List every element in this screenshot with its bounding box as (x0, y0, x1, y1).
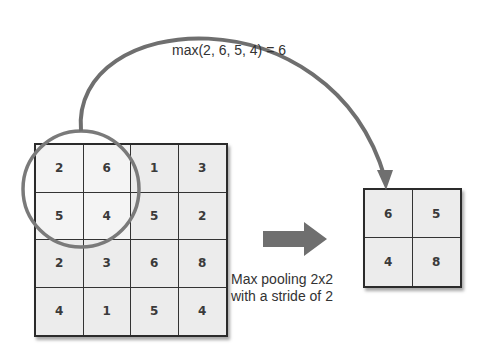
input-matrix: 2 6 1 3 5 4 5 2 2 3 6 8 4 1 5 4 (34, 143, 228, 337)
pooling-caption: Max pooling 2x2 with a stride of 2 (231, 271, 333, 305)
output-cell: 8 (413, 238, 461, 286)
input-cell: 5 (131, 193, 179, 241)
input-cell: 8 (179, 240, 227, 288)
output-matrix: 6 5 4 8 (363, 188, 462, 288)
input-cell: 2 (179, 193, 227, 241)
input-cell: 6 (131, 240, 179, 288)
input-cell: 1 (131, 145, 179, 193)
input-cell: 4 (36, 288, 84, 336)
input-cell: 1 (84, 288, 132, 336)
caption-line-2: with a stride of 2 (231, 288, 333, 305)
input-cell: 5 (36, 193, 84, 241)
input-cell: 6 (84, 145, 132, 193)
input-cell: 5 (131, 288, 179, 336)
caption-line-1: Max pooling 2x2 (231, 271, 333, 288)
right-arrow-icon (263, 222, 327, 256)
input-cell: 2 (36, 145, 84, 193)
input-cell: 3 (179, 145, 227, 193)
input-cell: 3 (84, 240, 132, 288)
output-cell: 5 (413, 190, 461, 238)
input-cell: 2 (36, 240, 84, 288)
output-cell: 6 (365, 190, 413, 238)
max-formula-label: max(2, 6, 5, 4) = 6 (172, 42, 286, 59)
input-cell: 4 (84, 193, 132, 241)
output-cell: 4 (365, 238, 413, 286)
max-pooling-diagram: 2 6 1 3 5 4 5 2 2 3 6 8 4 1 5 4 6 5 4 8 … (0, 0, 482, 357)
input-cell: 4 (179, 288, 227, 336)
